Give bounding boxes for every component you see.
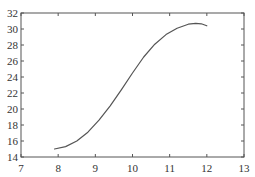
x-tick-label: 8: [55, 162, 61, 174]
x-tick-label: 7: [18, 162, 24, 174]
y-tick-label: 18: [7, 119, 19, 131]
y-tick-label: 24: [7, 71, 19, 83]
series-line: [55, 23, 207, 149]
y-tick-label: 26: [7, 55, 19, 67]
x-axis: 78910111213: [18, 13, 250, 174]
x-tick-label: 12: [201, 162, 212, 174]
y-tick-label: 20: [7, 103, 19, 115]
y-tick-label: 14: [7, 151, 19, 163]
line-chart: 14161820222426283032 78910111213: [0, 0, 255, 177]
data-series: [55, 23, 207, 149]
y-tick-label: 22: [7, 87, 18, 99]
x-tick-label: 9: [93, 162, 99, 174]
x-tick-label: 11: [164, 162, 175, 174]
plot-frame: [21, 13, 244, 157]
plot-border: [21, 13, 244, 157]
y-axis: 14161820222426283032: [7, 7, 244, 163]
y-tick-label: 28: [7, 39, 19, 51]
y-tick-label: 16: [7, 135, 19, 147]
y-tick-label: 30: [7, 23, 19, 35]
y-tick-label: 32: [7, 7, 18, 19]
x-tick-label: 10: [127, 162, 139, 174]
x-tick-label: 13: [239, 162, 251, 174]
